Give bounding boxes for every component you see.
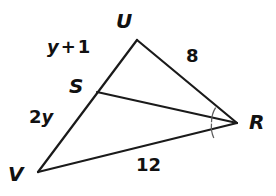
- su-operator: +: [59, 36, 78, 57]
- side-length-label-ur: 8: [186, 47, 199, 65]
- sv-variable: y: [42, 106, 54, 127]
- vertex-label-r: R: [249, 112, 264, 132]
- angle-arc-SRV: [211, 124, 213, 138]
- segment-expression-label-sv: 2y: [29, 108, 53, 126]
- vertex-label-v: V: [8, 164, 23, 184]
- angle-arc-URS: [211, 108, 215, 123]
- vertex-label-u: U: [116, 11, 132, 31]
- su-variable-term: y: [47, 36, 59, 57]
- side-length-label-vr: 12: [136, 156, 161, 174]
- su-constant: 1: [78, 36, 91, 57]
- sv-coefficient: 2: [29, 106, 42, 127]
- segment-expression-label-su: y+1: [47, 38, 90, 56]
- geometry-figure: U S V R 8 12 y+1 2y: [0, 0, 276, 196]
- angle-bisector-segment-SR: [97, 92, 237, 123]
- vertex-label-s: S: [69, 76, 83, 96]
